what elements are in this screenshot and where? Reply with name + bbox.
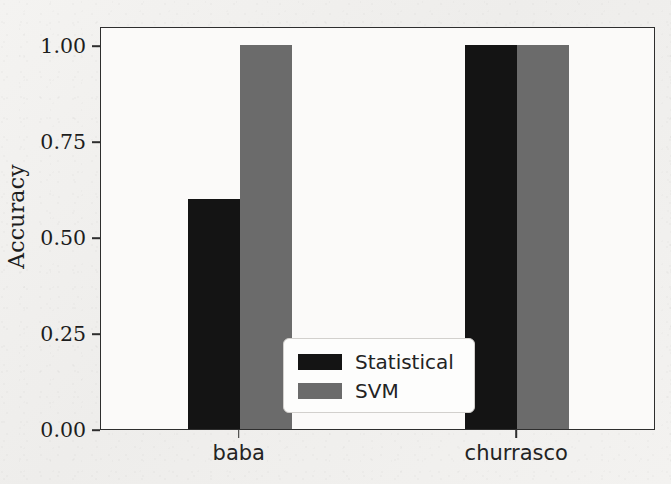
legend-swatch-icon xyxy=(298,383,342,399)
legend-label: SVM xyxy=(355,381,399,401)
y-axis-tick-mark xyxy=(92,237,100,239)
y-axis-tick-mark xyxy=(92,429,100,431)
legend: StatisticalSVM xyxy=(283,338,475,413)
y-axis-tick-label: 0.50 xyxy=(40,226,86,250)
bar-baba-statistical xyxy=(188,199,240,429)
y-axis-tick-mark xyxy=(92,333,100,335)
y-axis-tick-labels: 0.000.250.500.751.00 xyxy=(0,0,86,484)
y-axis-tick-mark xyxy=(92,141,100,143)
y-axis-tick-mark xyxy=(92,45,100,47)
y-axis-tick-label: 0.75 xyxy=(40,130,86,154)
legend-item-statistical[interactable]: Statistical xyxy=(298,347,474,376)
y-axis-tick-label: 1.00 xyxy=(40,34,86,58)
bar-churrasco-svm xyxy=(517,45,569,429)
bar-chart-figure: Accuracy 0.000.250.500.751.00 babachurra… xyxy=(0,0,671,484)
y-axis-tick-label: 0.00 xyxy=(40,418,86,442)
y-axis-tick-label: 0.25 xyxy=(40,322,86,346)
legend-item-svm[interactable]: SVM xyxy=(298,376,474,405)
legend-label: Statistical xyxy=(355,352,454,372)
legend-swatch-icon xyxy=(298,354,342,370)
x-axis-tick-label-baba: baba xyxy=(213,441,265,465)
x-axis-tick-mark xyxy=(238,430,240,438)
x-axis-tick-mark xyxy=(515,430,517,438)
x-axis-tick-label-churrasco: churrasco xyxy=(465,441,568,465)
